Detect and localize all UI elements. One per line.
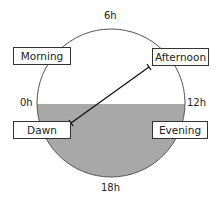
tick-6h: 6h bbox=[104, 10, 117, 22]
dawn-box: Dawn bbox=[13, 121, 71, 139]
tick-12h: 12h bbox=[187, 97, 206, 109]
evening-box: Evening bbox=[152, 121, 208, 139]
night-half bbox=[30, 104, 200, 184]
tick-0h: 0h bbox=[20, 97, 33, 109]
tick-18h: 18h bbox=[101, 182, 120, 194]
afternoon-box: Afternoon bbox=[152, 48, 209, 66]
morning-box: Morning bbox=[13, 47, 71, 65]
